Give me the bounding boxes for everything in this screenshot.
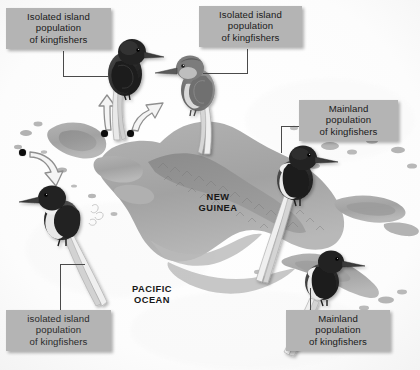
callout-line: population (304, 114, 393, 125)
callout-line: of kingfishers (11, 336, 106, 347)
callout-line: Isolated island (204, 9, 297, 20)
map-label-line: NEW (206, 192, 229, 202)
map-label-line: OCEAN (134, 295, 170, 305)
map-label-new-guinea: NEW GUINEA (182, 192, 254, 214)
leader-mainland-vertical (281, 126, 282, 153)
callout-line: population (204, 20, 297, 31)
dot-origin-west (19, 149, 26, 156)
leader-top-right-horizontal (203, 73, 248, 74)
callout-line: of kingfishers (304, 126, 393, 137)
callout-line: of kingfishers (204, 32, 297, 43)
map-label-line: PACIFIC (132, 284, 172, 294)
callout-line: population (11, 324, 106, 335)
bird-top-right-light (152, 48, 230, 156)
leader-bottom-right-vertical (310, 288, 311, 310)
leader-bottom-left-horizontal (60, 264, 85, 265)
dot-origin-center-left (101, 130, 108, 137)
bird-left-island (18, 178, 108, 308)
callout-isolated-island-top-left: Isolated island population of kingfisher… (6, 8, 111, 49)
callout-line: population (11, 22, 106, 33)
callout-line: of kingfishers (11, 34, 106, 45)
callout-line: Mainland (304, 103, 393, 114)
callout-line: population (291, 324, 385, 335)
callout-line: Mainland (291, 313, 385, 324)
figure-kingfisher-speciation: Isolated island population of kingfisher… (0, 0, 420, 370)
leader-top-right-vertical (247, 49, 248, 73)
leader-top-left-horizontal (63, 76, 109, 77)
callout-line: of kingfishers (291, 336, 385, 347)
dot-origin-center-right (127, 130, 134, 137)
leader-top-left-vertical (63, 51, 64, 76)
callout-isolated-island-top-right: Isolated island population of kingfisher… (199, 6, 302, 47)
map-label-pacific-ocean: PACIFIC OCEAN (118, 284, 186, 306)
leader-mainland-horizontal (281, 126, 300, 127)
callout-mainland-middle-right: Mainland population of kingfishers (299, 100, 398, 141)
leader-bottom-left-vertical (60, 264, 61, 310)
callout-line: Isolated island (11, 11, 106, 22)
callout-line: isolated island (11, 313, 106, 324)
callout-isolated-island-bottom-left: isolated island population of kingfisher… (6, 310, 111, 351)
map-label-line: GUINEA (199, 203, 238, 213)
callout-mainland-bottom-right: Mainland population of kingfishers (286, 310, 390, 351)
